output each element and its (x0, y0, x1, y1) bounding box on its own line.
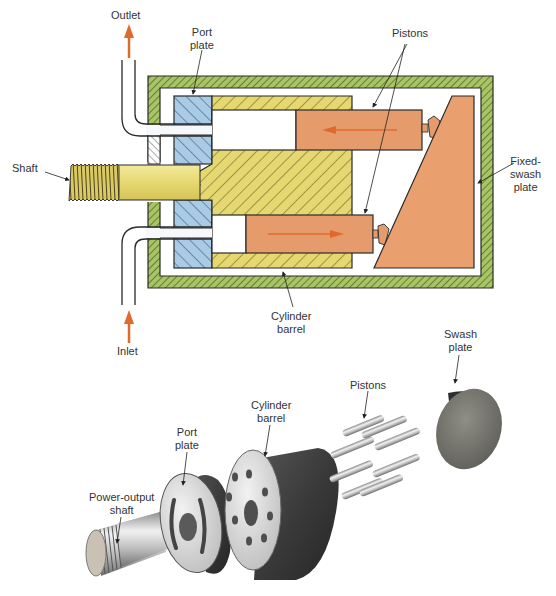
power-output-shaft (86, 511, 170, 576)
label-pistons: Pistons (392, 27, 428, 40)
exploded-swash-plate (426, 380, 512, 478)
label-inlet: Inlet (117, 345, 138, 358)
shaft-seal (148, 134, 160, 164)
label-exploded-port-plate: Port plate (175, 426, 199, 452)
label-exploded-pistons: Pistons (350, 379, 386, 392)
exploded-pistons (329, 414, 421, 500)
label-fixed-swash-plate: Fixed- swash plate (510, 155, 541, 194)
label-outlet: Outlet (111, 9, 140, 22)
inlet-flow-arrow-icon (124, 310, 134, 343)
cross-section-diagram (45, 24, 514, 343)
label-power-output-shaft: Power-output shaft (89, 491, 154, 517)
outlet-flow-arrow-icon (124, 24, 134, 58)
label-exploded-swash-plate: Swash plate (444, 328, 477, 354)
lower-piston (246, 215, 389, 253)
upper-piston (296, 110, 440, 150)
label-exploded-cylinder-barrel: Cylinder barrel (251, 399, 291, 425)
shaft (69, 164, 200, 201)
diagram-canvas (0, 0, 556, 596)
exploded-cylinder-barrel (225, 448, 339, 580)
label-shaft: Shaft (12, 162, 38, 175)
exploded-port-plate (153, 469, 232, 578)
label-port-plate: Port plate (190, 26, 214, 52)
label-cylinder-barrel: Cylinder barrel (271, 310, 311, 336)
exploded-view (86, 355, 512, 580)
